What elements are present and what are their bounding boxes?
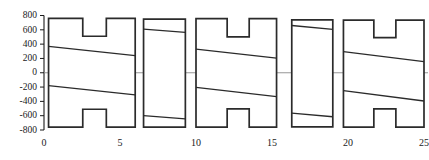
box-glyph [144,19,186,127]
y-tick-label: -800 [20,125,38,135]
x-tick-label: 10 [191,137,201,148]
box-outline [292,20,333,127]
x-tick-label: 0 [42,137,47,148]
y-tick-label: 200 [23,53,38,63]
chart-container: 8006004002000-200-400-600-800 0510152025 [0,0,429,160]
y-tick-label: 400 [23,39,38,49]
box-glyph [292,20,333,127]
box-outline [144,19,186,127]
x-tick-label: 15 [267,137,277,148]
box-outline [196,19,277,127]
plot-glyphs [49,18,424,127]
y-tick-label: -600 [20,110,38,120]
y-tick-label: -400 [20,96,38,106]
statistical-box-chart: 8006004002000-200-400-600-800 0510152025 [0,0,429,160]
x-tick-label: 20 [343,137,353,148]
y-tick-label: 800 [23,10,38,20]
x-tick-label: 25 [419,137,429,148]
box-glyph [49,18,136,127]
box-glyph [343,20,424,127]
y-tick-label: -200 [20,82,38,92]
y-tick-label: 600 [23,25,38,35]
y-axis: 8006004002000-200-400-600-800 [20,10,44,135]
x-axis: 0510152025 [42,137,429,148]
box-glyph [196,19,277,127]
y-tick-label: 0 [32,67,37,77]
box-outline [49,18,136,127]
x-tick-label: 5 [118,137,123,148]
box-outline [343,20,424,127]
